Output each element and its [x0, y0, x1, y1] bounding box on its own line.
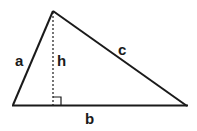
label-c: c: [118, 41, 126, 58]
label-a: a: [15, 52, 24, 69]
right-angle-marker: [53, 97, 61, 105]
label-h: h: [57, 52, 66, 69]
label-b: b: [85, 110, 94, 127]
triangle-diagram: a h c b: [0, 0, 197, 131]
side-c: [53, 11, 187, 106]
